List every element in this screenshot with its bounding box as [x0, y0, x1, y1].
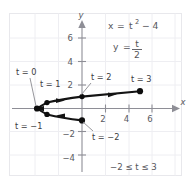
- annotation-t-0: t = 0: [16, 67, 37, 77]
- plot-canvas: 2 4 6 2 4 6 −2 −4 x y: [0, 0, 191, 186]
- annotation-t-minus-2: t = −2: [92, 132, 119, 142]
- equation-y-equals: =: [123, 41, 131, 52]
- y-tick-label-2: 2: [68, 80, 73, 90]
- equation-y-denominator: 2: [134, 49, 140, 60]
- y-tick-label-6: 6: [68, 33, 73, 43]
- equation-y-lhs: y: [113, 41, 119, 52]
- point-t-minus-1: [44, 112, 49, 117]
- x-tick-label-4: 4: [124, 114, 129, 124]
- equation-y-numerator: t: [135, 38, 139, 49]
- domain-constraint: −2 ≤ t ≤ 3: [110, 162, 157, 172]
- equation-x-equals: =: [117, 20, 125, 31]
- y-axis-label: y: [77, 10, 84, 20]
- equation-x-base: t: [129, 20, 133, 31]
- point-t-1: [44, 100, 49, 105]
- point-t-3: [137, 88, 143, 94]
- parametric-curve-figure: 2 4 6 2 4 6 −2 −4 x y: [0, 0, 191, 186]
- x-tick-label-6: 6: [147, 114, 152, 124]
- point-t-0: [34, 105, 40, 111]
- annotation-t-2: t = 2: [91, 72, 112, 82]
- x-tick-label-2: 2: [100, 114, 105, 124]
- annotation-t-3: t = 3: [131, 74, 152, 84]
- y-tick-label-4: 4: [68, 57, 73, 67]
- annotation-t-1: t = 1: [40, 79, 61, 89]
- y-tick-label-minus-2: −2: [62, 129, 75, 139]
- equation-x-lhs: x: [108, 20, 114, 31]
- y-tick-label-minus-4: −4: [62, 153, 75, 163]
- point-t-2: [79, 94, 84, 99]
- equation-x-tail: − 4: [142, 20, 159, 31]
- annotation-t-minus-1: t = −1: [15, 121, 42, 131]
- x-axis-label: x: [179, 97, 186, 107]
- equation-x-exponent: 2: [135, 18, 139, 26]
